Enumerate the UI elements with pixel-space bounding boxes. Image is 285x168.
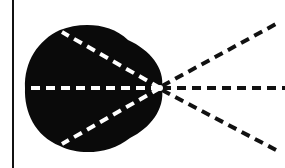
origin-point <box>157 85 163 91</box>
outer-rays <box>162 24 285 150</box>
radiation-pattern-diagram <box>0 0 285 168</box>
